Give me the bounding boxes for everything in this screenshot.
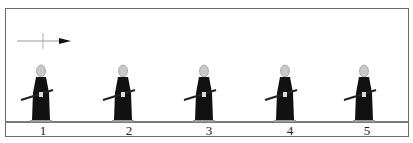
kendoka-figure-1: [19, 63, 65, 123]
kendoka-figure-4: [263, 63, 309, 123]
direction-arrow-icon: [17, 33, 72, 49]
kendoka-figure-5: [342, 63, 388, 123]
step-label-1: 1: [33, 123, 53, 139]
kendoka-figure-2: [101, 63, 147, 123]
step-label-4: 4: [280, 123, 300, 139]
kendoka-figure-3: [182, 63, 228, 123]
step-label-2: 2: [119, 123, 139, 139]
step-label-3: 3: [199, 123, 219, 139]
step-label-5: 5: [357, 123, 377, 139]
